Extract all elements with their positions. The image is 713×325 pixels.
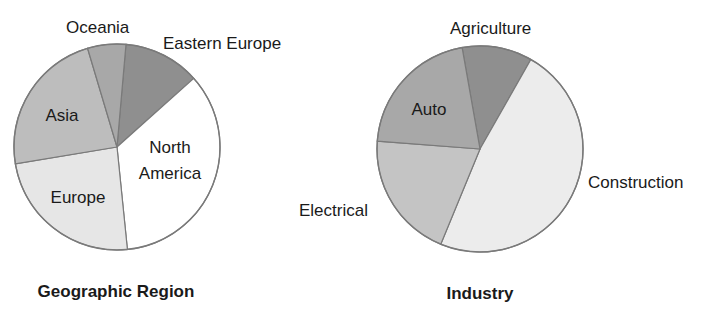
pie-charts-figure: Eastern EuropeNorthAmericaEuropeAsiaOcea… xyxy=(0,0,713,325)
slice-auto xyxy=(377,48,480,149)
industry-pie-chart: AgricultureConstructionElectricalAuto In… xyxy=(299,19,683,303)
label-construction: Construction xyxy=(588,173,683,192)
chart-title: Industry xyxy=(446,284,514,303)
label-europe: Europe xyxy=(51,188,106,207)
label-agriculture: Agriculture xyxy=(450,19,531,38)
label-auto: Auto xyxy=(412,100,447,119)
label-eastern-europe: Eastern Europe xyxy=(163,34,281,53)
pie-slices xyxy=(377,46,583,252)
label-electrical: Electrical xyxy=(299,201,368,220)
chart-title: Geographic Region xyxy=(38,282,195,301)
label-asia: Asia xyxy=(45,106,79,125)
label-oceania: Oceania xyxy=(66,18,130,37)
geographic-region-pie-chart: Eastern EuropeNorthAmericaEuropeAsiaOcea… xyxy=(14,18,281,301)
